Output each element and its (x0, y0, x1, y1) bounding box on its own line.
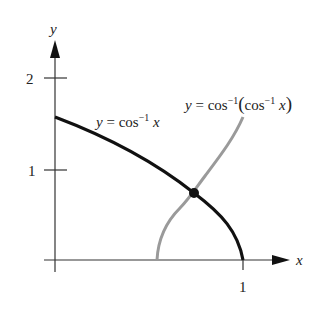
y-axis-arrow-icon (50, 40, 60, 58)
series-label-arccos: y = cos−1 x (94, 112, 160, 130)
x-axis-label: x (295, 252, 303, 268)
x-tick-label-1: 1 (239, 279, 247, 295)
series-label-arccos-arccos: y = cos−1(cos−1 x) (183, 93, 292, 115)
y-tick-label-2: 2 (26, 71, 34, 87)
x-axis-arrow-icon (272, 255, 290, 265)
intersection-point (189, 188, 199, 198)
y-axis-label: y (48, 21, 57, 37)
series-arccos (55, 117, 243, 260)
chart: y x 2 1 1 y = cos−1 x y = cos−1(cos−1 x) (0, 0, 315, 312)
series-arccos-arccos (157, 117, 243, 260)
y-tick-label-1: 1 (28, 163, 36, 179)
